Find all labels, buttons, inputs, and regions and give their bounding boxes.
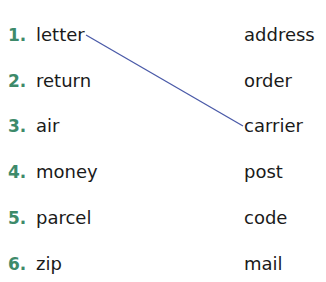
item-number: 3. [8,114,26,138]
left-word[interactable]: money [36,160,98,184]
match-row-2: 2. return order [0,69,326,93]
item-number: 1. [8,23,26,47]
left-word[interactable]: air [36,114,59,138]
match-row-1: 1. letter address [0,23,326,47]
left-word[interactable]: parcel [36,206,91,230]
match-row-4: 4. money post [0,160,326,184]
right-word[interactable]: post [244,160,283,184]
item-number: 2. [8,69,26,93]
right-word[interactable]: address [244,23,315,47]
right-word[interactable]: order [244,69,292,93]
left-word[interactable]: letter [36,23,85,47]
match-row-5: 5. parcel code [0,206,326,230]
right-word[interactable]: mail [244,252,283,276]
item-number: 5. [8,206,26,230]
right-word[interactable]: carrier [244,114,303,138]
left-word[interactable]: zip [36,252,62,276]
left-word[interactable]: return [36,69,91,93]
item-number: 6. [8,252,26,276]
match-row-6: 6. zip mail [0,252,326,276]
item-number: 4. [8,160,26,184]
right-word[interactable]: code [244,206,287,230]
match-row-3: 3. air carrier [0,114,326,138]
